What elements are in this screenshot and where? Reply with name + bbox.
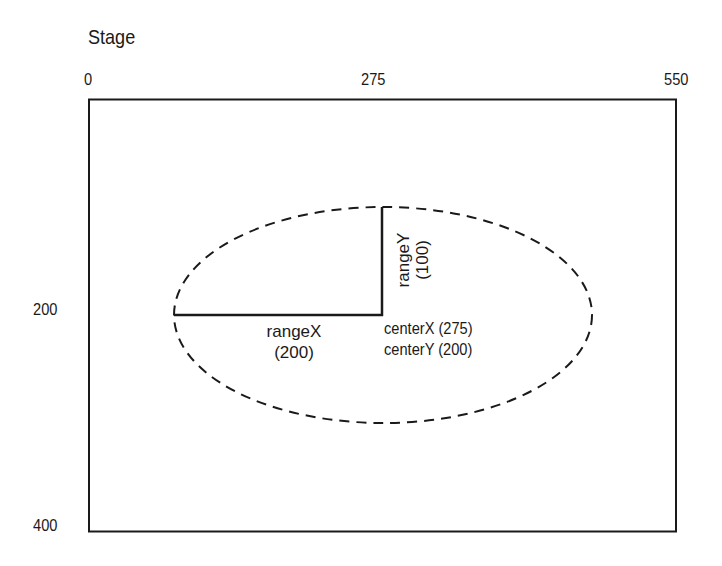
rangeY-value: (100)	[413, 215, 432, 305]
center-label: centerX (275) centerY (200)	[384, 318, 473, 360]
centerY-label: centerY (200)	[384, 339, 473, 360]
stage-diagram	[0, 0, 722, 566]
rangeX-value: (200)	[249, 342, 339, 363]
rangeY-label: rangeY (100)	[394, 215, 432, 305]
rangeX-name: rangeX	[249, 321, 339, 342]
centerX-label: centerX (275)	[384, 318, 473, 339]
rangeY-name: rangeY	[394, 215, 413, 305]
rangeX-label: rangeX (200)	[249, 321, 339, 363]
